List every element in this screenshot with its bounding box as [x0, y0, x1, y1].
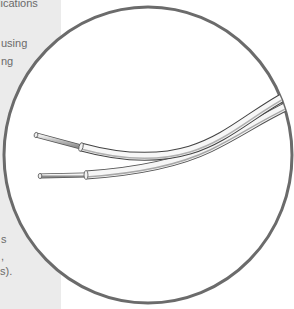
wire-illustration	[0, 0, 294, 309]
